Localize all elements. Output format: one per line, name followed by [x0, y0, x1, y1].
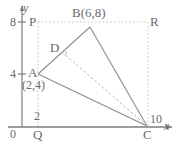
y-tick-label-8: 8	[10, 16, 16, 28]
point-label-Q: Q	[33, 128, 42, 141]
x-tick-label-2: 2	[34, 110, 40, 122]
origin-label: 0	[10, 128, 16, 140]
x-axis-label: x	[164, 120, 169, 132]
segment-DC-dashed	[62, 52, 147, 126]
point-label-P: P	[29, 15, 36, 28]
point-coords-A: (2,4)	[22, 79, 45, 91]
x-tick-label-10: 10	[150, 113, 162, 125]
point-label-B: B(6,8)	[72, 6, 106, 19]
y-tick-label-4: 4	[10, 68, 16, 80]
right-angle-mark-icon	[64, 50, 67, 56]
segment-AC	[38, 74, 147, 126]
point-label-C: C	[143, 128, 152, 141]
coordinate-geometry-figure: y x 0 8 4 2 10 P B(6,8) R D A (2,4) Q C	[0, 0, 179, 148]
segment-BC	[90, 27, 147, 126]
y-axis-label: y	[23, 2, 28, 14]
point-label-D: D	[50, 41, 59, 54]
point-label-R: R	[150, 15, 159, 28]
